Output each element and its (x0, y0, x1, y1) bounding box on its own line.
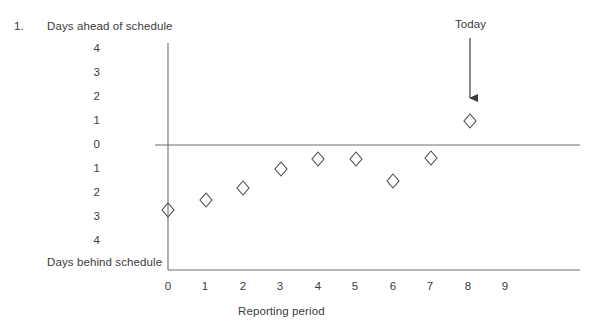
data-point (464, 114, 476, 128)
data-point (425, 151, 437, 165)
data-point (275, 162, 287, 176)
data-point (237, 181, 249, 195)
data-series (162, 114, 476, 217)
data-point (200, 193, 212, 207)
data-point (350, 152, 362, 166)
data-point (387, 174, 399, 188)
data-point (312, 152, 324, 166)
plot-area (0, 0, 611, 331)
chart-container: 1. Days ahead of schedule Days behind sc… (0, 0, 611, 331)
